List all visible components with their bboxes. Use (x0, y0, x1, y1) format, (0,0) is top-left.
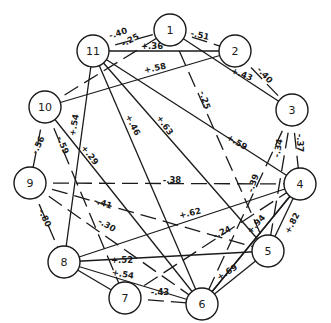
edge-weight-label: -.25 (197, 90, 212, 111)
edge-weight-label: +.54 (111, 267, 135, 281)
node-8: 8 (48, 246, 80, 278)
edge-4-6 (202, 184, 300, 304)
node-label: 11 (86, 45, 100, 58)
edge-weight-label: +.94 (245, 212, 267, 235)
edge-11-5 (93, 51, 268, 251)
node-5: 5 (252, 235, 284, 267)
edge-weight-label: -.43 (151, 287, 170, 297)
edge-weight-label: -.56 (30, 134, 47, 155)
edge-weight-label: +.43 (230, 65, 254, 83)
edge-weight-label: +.58 (143, 61, 167, 75)
node-6: 6 (186, 288, 218, 320)
edge-weight-label: -.51 (190, 28, 210, 42)
edge-weight-label: +.62 (178, 205, 202, 220)
edge-weight-label: +.54 (67, 113, 81, 137)
edge-weight-label: -.41 (93, 195, 114, 210)
correlation-network-diagram: -.40-.25+.36-.51+.43-.40+.58-.25+.59-.37… (0, 0, 331, 323)
node-7: 7 (109, 282, 141, 314)
edge-weight-label: -.38 (163, 175, 182, 185)
node-label: 3 (289, 104, 296, 117)
node-4: 4 (284, 168, 316, 200)
node-label: 4 (297, 178, 304, 191)
node-2: 2 (219, 35, 251, 67)
node-label: 9 (27, 177, 34, 190)
node-label: 10 (38, 101, 52, 114)
node-10: 10 (29, 91, 61, 123)
node-3: 3 (276, 94, 308, 126)
node-label: 8 (61, 256, 68, 269)
edge-weight-label: +.46 (123, 113, 142, 137)
node-label: 5 (265, 245, 272, 258)
node-label: 2 (232, 45, 239, 58)
edge-weight-label: -.80 (37, 207, 54, 228)
edge-9-5 (30, 183, 268, 251)
node-9: 9 (14, 167, 46, 199)
node-label: 1 (167, 24, 174, 37)
node-label: 7 (122, 292, 129, 305)
edge-weight-label: +.69 (215, 262, 239, 282)
node-1: 1 (154, 14, 186, 46)
edge-weight-label: -.34 (271, 138, 284, 158)
edge-weight-label: +.52 (111, 255, 133, 265)
nodes-layer: 1234567891011 (14, 14, 316, 320)
node-label: 6 (199, 298, 206, 311)
node-11: 11 (77, 35, 109, 67)
edge-weight-label: +.59 (225, 132, 249, 152)
edge-weight-label: -.37 (295, 134, 305, 153)
